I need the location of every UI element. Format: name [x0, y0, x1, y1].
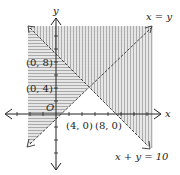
point-label-0-8: (0, 8)	[26, 57, 53, 68]
x-axis-label: x	[165, 108, 171, 119]
line-label-x-eq-y: x = y	[146, 11, 172, 22]
y-axis-label: y	[52, 5, 59, 16]
line-label-x-plus-y-eq-10: x + y = 10	[115, 151, 169, 162]
point-label-0-4: (0, 4)	[26, 83, 53, 94]
point-label-4-0: (4, 0)	[66, 120, 93, 131]
point-label-8-0: (8, 0)	[95, 120, 122, 131]
origin-label: O	[46, 102, 54, 113]
inequality-graph: y x O x = y x + y = 10 (0, 8) (0, 4) (4,…	[0, 0, 180, 175]
